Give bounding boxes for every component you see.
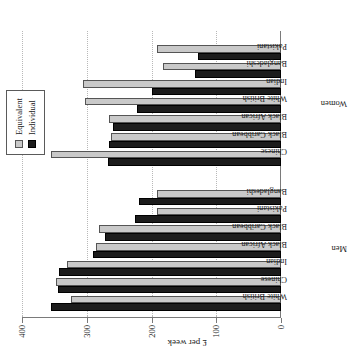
group-label: Women (321, 100, 347, 109)
category-label: Black Caribbean (232, 129, 287, 137)
axis-tick-label: 100 (212, 325, 221, 351)
chart-figure: 0100200300400 White BritishChineseIndian… (0, 0, 355, 351)
category-label: White British (243, 292, 287, 300)
axis-tick (216, 318, 217, 323)
category-label: Indian (266, 77, 287, 85)
bar-individual (59, 268, 281, 276)
gridline (22, 31, 24, 317)
category-label: Pakistani (257, 204, 287, 212)
chart-rotated-canvas: 0100200300400 White BritishChineseIndian… (0, 0, 355, 351)
axis-tick-label: 300 (83, 325, 92, 351)
chart-legend: Equivalent Individual (6, 90, 45, 155)
group-label: Men (331, 245, 347, 254)
value-axis-title: £ per week (167, 338, 206, 347)
category-label: Bangladeshi (247, 187, 287, 195)
bar-equivalent (67, 261, 281, 269)
category-label: Black African (241, 112, 287, 120)
legend-swatch-individual-icon (28, 140, 36, 148)
bar-equivalent (56, 278, 281, 286)
legend-item-equivalent: Equivalent (13, 98, 25, 148)
axis-tick (22, 318, 23, 323)
legend-swatch-equivalent-icon (15, 140, 23, 148)
category-label: Chinese (261, 275, 287, 283)
bar-individual (109, 141, 281, 149)
category-label: Black African (241, 239, 287, 247)
category-label: Bangladeshi (247, 59, 287, 67)
axis-tick-label: 400 (18, 325, 27, 351)
legend-item-individual: Individual (26, 98, 38, 148)
bar-individual (108, 158, 281, 166)
legend-label-equivalent: Equivalent (15, 98, 24, 135)
category-label: Indian (266, 257, 287, 265)
category-label: Chinese (261, 147, 287, 155)
axis-tick-label: 200 (148, 325, 157, 351)
bar-individual (51, 303, 281, 311)
axis-tick (87, 318, 88, 323)
bar-equivalent (51, 151, 281, 159)
axis-tick (152, 318, 153, 323)
plot-area: 0100200300400 (96, 31, 281, 317)
bar-individual (93, 251, 281, 259)
category-label: White British (243, 94, 287, 102)
category-label: Black Caribbean (232, 222, 287, 230)
bar-equivalent (83, 80, 281, 88)
legend-label-individual: Individual (28, 100, 37, 135)
axis-tick (281, 318, 282, 323)
axis-tick-label: 0 (277, 325, 286, 351)
category-label: Pakistani (257, 41, 287, 49)
